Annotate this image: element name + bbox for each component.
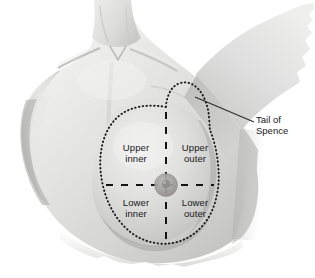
nipple: [162, 180, 170, 188]
quadrant-label-lower-inner-line2: inner: [113, 209, 159, 220]
upper-chest-highlight: [78, 60, 146, 100]
nipple-areola: [155, 174, 178, 197]
tail-of-spence-label: Tail of Spence: [256, 114, 288, 136]
breast-quadrants-figure: Upper inner Upper outer Lower inner Lowe…: [0, 0, 315, 278]
anatomical-illustration: [0, 0, 315, 278]
nipple-highlight: [163, 181, 167, 185]
quadrant-label-upper-inner-line2: inner: [113, 154, 159, 165]
quadrant-label-upper-outer: Upper outer: [172, 143, 218, 164]
tail-of-spence-label-line2: Spence: [256, 125, 288, 136]
quadrant-label-upper-outer-line1: Upper: [182, 142, 208, 153]
quadrant-label-lower-outer: Lower outer: [172, 198, 218, 219]
tail-of-spence-label-line1: Tail of: [256, 114, 281, 125]
quadrant-label-lower-outer-line2: outer: [172, 209, 218, 220]
quadrant-label-lower-outer-line1: Lower: [182, 197, 208, 208]
quadrant-label-upper-inner-line1: Upper: [123, 142, 149, 153]
quadrant-label-upper-outer-line2: outer: [172, 154, 218, 165]
quadrant-label-upper-inner: Upper inner: [113, 143, 159, 164]
quadrant-label-lower-inner: Lower inner: [113, 198, 159, 219]
torso-body: [0, 0, 315, 278]
quadrant-label-lower-inner-line1: Lower: [123, 197, 149, 208]
